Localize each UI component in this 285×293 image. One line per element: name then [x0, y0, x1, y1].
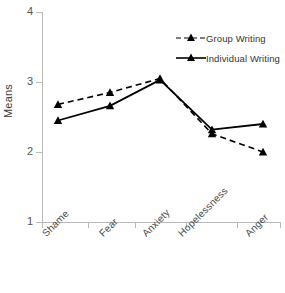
y-axis-tick-2: [36, 152, 42, 153]
line-chart: Means 4 3 2 1 Shame Fear Anxiety Hopeles…: [0, 0, 285, 293]
y-axis-tick-4: [36, 12, 42, 13]
y-axis-line: [42, 12, 43, 223]
data-point-group-writing-shame: [54, 100, 62, 108]
x-axis-tick-end: [280, 222, 281, 228]
data-point-group-writing-anxiety: [156, 74, 164, 82]
legend-item-individual-writing: Individual Writing: [176, 48, 284, 68]
x-axis-tick-2: [135, 222, 136, 228]
y-axis-label-4: 4: [18, 6, 33, 17]
data-point-individual-writing-anxiety: [156, 76, 164, 84]
data-point-individual-writing-anger: [259, 120, 267, 128]
data-point-group-writing-hopelessness: [208, 130, 216, 138]
x-axis-label-shame: Shame: [40, 208, 71, 239]
x-axis-tick-1: [88, 222, 89, 228]
y-axis-tick-3: [36, 82, 42, 83]
legend: Group Writing Individual Writing: [176, 28, 284, 68]
x-axis-label-hopelessness: Hopelessness: [176, 185, 230, 239]
legend-label-group-writing: Group Writing: [206, 33, 266, 44]
data-point-individual-writing-fear: [106, 102, 114, 110]
legend-label-individual-writing: Individual Writing: [206, 53, 280, 64]
y-axis-label-2: 2: [18, 146, 33, 157]
y-axis-label-3: 3: [18, 76, 33, 87]
series-line-individual-writing: [58, 80, 263, 130]
x-axis-label-anger: Anger: [243, 211, 270, 238]
y-axis-label-1: 1: [18, 216, 33, 227]
y-axis-title: Means: [2, 71, 14, 131]
data-point-group-writing-anger: [259, 148, 267, 156]
x-axis-tick-4: [237, 222, 238, 228]
legend-item-group-writing: Group Writing: [176, 28, 284, 48]
x-axis-label-fear: Fear: [97, 216, 120, 239]
legend-marker-solid-triangle-icon: [176, 51, 206, 65]
series-line-group-writing: [58, 79, 263, 153]
data-point-individual-writing-shame: [54, 116, 62, 124]
data-point-individual-writing-hopelessness: [208, 125, 216, 133]
legend-marker-dashed-triangle-icon: [176, 31, 206, 45]
data-point-group-writing-fear: [106, 88, 114, 96]
